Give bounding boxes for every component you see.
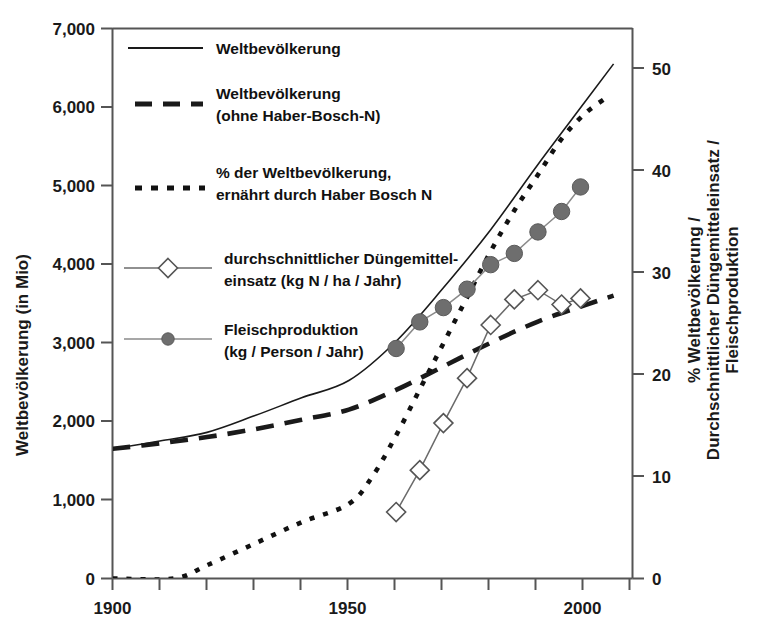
- y-tick-label-6000: 6,000: [52, 98, 95, 117]
- y-axis-title: Weltbevölkerung (in Mio): [13, 254, 32, 456]
- y2-tick-label-40: 40: [652, 162, 671, 181]
- y-tick-label-2000: 2,000: [52, 412, 95, 431]
- legend-label-weltbevoelkerung-ohne-hb-l1: Weltbevölkerung: [216, 85, 341, 102]
- population-nitrogen-chart: 7,000 6,000 5,000 4,000 3,000 2,000 1,00…: [0, 0, 767, 639]
- legend-label-fleischproduktion-l1: Fleischproduktion: [224, 321, 358, 338]
- data-point-fleischproduktion: [388, 340, 404, 356]
- data-point-fleischproduktion: [506, 245, 522, 261]
- y-tick-label-3000: 3,000: [52, 334, 95, 353]
- y2-tick-label-20: 20: [652, 366, 671, 385]
- y2-axis-title-line3: Fleischproduktion: [723, 226, 742, 373]
- y2-tick-label-10: 10: [652, 468, 671, 487]
- y2-tick-label-0: 0: [652, 570, 661, 589]
- y2-axis-title-line2: Durchschnittlicher Düngemitteleinsatz /: [704, 140, 723, 460]
- legend-marker-circle-icon: [162, 333, 174, 345]
- legend-label-weltbevoelkerung: Weltbevölkerung: [216, 40, 341, 57]
- y2-axis-title-line1: % Weltbevölkerung /: [685, 217, 704, 383]
- y-tick-label-1000: 1,000: [52, 491, 95, 510]
- y2-tick-label-30: 30: [652, 264, 671, 283]
- data-point-fleischproduktion: [572, 179, 588, 195]
- y-tick-label-4000: 4,000: [52, 255, 95, 274]
- data-point-fleischproduktion: [435, 299, 451, 315]
- y-tick-label-5000: 5,000: [52, 177, 95, 196]
- x-tick-label-1950: 1950: [329, 599, 367, 618]
- data-point-fleischproduktion: [553, 203, 569, 219]
- data-point-fleischproduktion: [482, 256, 498, 272]
- chart-background: [0, 0, 767, 639]
- data-point-fleischproduktion: [459, 281, 475, 297]
- legend-label-prozent-haber-bosch-l2: ernährt durch Haber Bosch N: [216, 186, 432, 203]
- legend-label-duengemitteleinsatz-l2: einsatz (kg N / ha / Jahr): [224, 272, 401, 289]
- legend-label-weltbevoelkerung-ohne-hb-l2: (ohne Haber-Bosch-N): [216, 107, 380, 124]
- legend-label-duengemitteleinsatz-l1: durchschnittlicher Düngemittel-: [224, 250, 458, 267]
- data-point-fleischproduktion: [530, 224, 546, 240]
- data-point-fleischproduktion: [412, 314, 428, 330]
- x-tick-label-1900: 1900: [94, 599, 132, 618]
- y2-tick-label-50: 50: [652, 60, 671, 79]
- chart-page: 7,000 6,000 5,000 4,000 3,000 2,000 1,00…: [0, 0, 767, 639]
- y-tick-label-7000: 7,000: [52, 20, 95, 39]
- x-tick-label-2000: 2000: [564, 599, 602, 618]
- legend-label-fleischproduktion-l2: (kg / Person / Jahr): [224, 343, 364, 360]
- legend-label-prozent-haber-bosch-l1: % der Weltbevölkerung,: [216, 164, 391, 181]
- y-tick-label-0: 0: [86, 570, 95, 589]
